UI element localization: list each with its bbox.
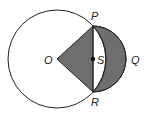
point-s <box>91 57 95 61</box>
shaded-triangle-opr <box>57 26 93 92</box>
circle-diagram: P O S Q R <box>0 0 145 114</box>
label-o: O <box>44 54 53 66</box>
label-p: P <box>91 10 99 22</box>
label-r: R <box>91 96 99 108</box>
label-s: S <box>97 54 105 66</box>
label-q: Q <box>131 54 140 66</box>
